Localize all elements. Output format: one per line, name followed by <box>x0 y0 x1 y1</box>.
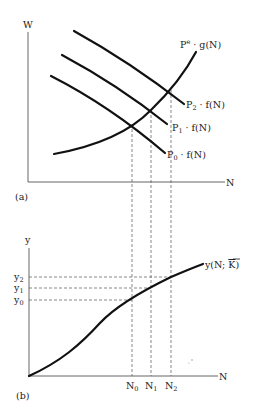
supply-curve <box>54 52 196 154</box>
panel-b: y N (b) y2 y1 y0 N0 N1 N2 y(N; K) <box>13 234 240 401</box>
demand-p2-label: P2 · f(N) <box>186 99 225 112</box>
y-axis-label: y <box>24 234 31 245</box>
n1-label: N1 <box>145 380 157 393</box>
panel-b-caption: (b) <box>16 390 30 401</box>
panel-a: W N (a) Pe · g(N) P2 · f(N) P1 · f(N) P0… <box>15 19 234 376</box>
scan-speck <box>191 359 192 360</box>
n0-label: N0 <box>126 380 138 393</box>
w-axis-label: W <box>23 19 33 30</box>
n-axis-label-a: N <box>226 177 234 188</box>
supply-curve-label: Pe · g(N) <box>180 38 221 50</box>
panel-a-caption: (a) <box>15 191 28 202</box>
n-axis-label-b: N <box>219 371 227 382</box>
demand-p1-label: P1 · f(N) <box>172 122 211 135</box>
n2-label: N2 <box>165 380 177 393</box>
production-function-label: y(N; K) <box>204 259 239 270</box>
demand-p0-label: P0 · f(N) <box>167 149 206 162</box>
labor-market-diagram: W N (a) Pe · g(N) P2 · f(N) P1 · f(N) P0… <box>0 0 256 411</box>
scan-speck <box>188 362 189 363</box>
y0-label: y0 <box>13 294 24 307</box>
production-function-curve <box>29 264 203 376</box>
